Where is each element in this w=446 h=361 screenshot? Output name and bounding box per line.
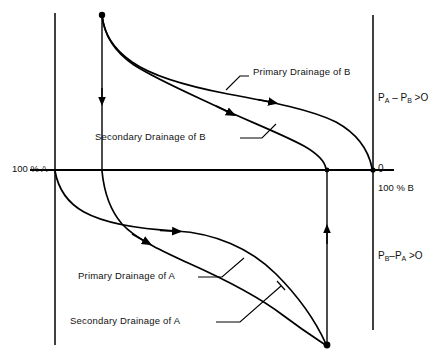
leader-primary-drainage-of-b <box>226 76 249 90</box>
pressure-lower-rel: >O <box>409 250 423 261</box>
arrow-primary-drainage-of-b <box>258 100 276 104</box>
pressure-upper-rel: >O <box>415 92 429 103</box>
arrow-secondary-drainage-of-b <box>216 106 234 115</box>
axis-label-origin: 0 <box>378 163 384 174</box>
top-terminal-dot <box>99 12 105 18</box>
pressure-lower-p1: P <box>378 250 385 261</box>
origin-dot <box>370 167 375 172</box>
pressure-upper-op: – <box>392 92 398 103</box>
drainage-hysteresis-svg <box>0 0 446 361</box>
diagram-canvas: 100 % A 0 100 % B PA – PB >O PB–PA >O Pr… <box>0 0 446 361</box>
label-secondary-drainage-of-a: Secondary Drainage of A <box>70 315 180 326</box>
axis-label-right-lower: 100 % B <box>378 182 414 193</box>
leader-secondary-drainage-of-a <box>216 286 281 322</box>
arrow-secondary-drainage-of-a <box>132 234 150 244</box>
bottom-terminal-dot <box>324 342 331 349</box>
pressure-lower-sub2: A <box>402 255 407 262</box>
curve-primary-drainage-of-b <box>102 15 372 168</box>
pressure-upper-sub1: A <box>385 97 390 104</box>
arrow-primary-drainage-of-a <box>160 231 180 232</box>
label-primary-drainage-of-a: Primary Drainage of A <box>78 270 175 281</box>
axis-label-left: 100 % A <box>12 163 47 174</box>
label-secondary-drainage-of-b: Secondary Drainage of B <box>95 131 206 142</box>
pressure-note-upper: PA – PB >O <box>378 92 428 104</box>
pressure-upper-p1: P <box>378 92 385 103</box>
pressure-upper-sub2: B <box>407 97 412 104</box>
leader-primary-drainage-of-a <box>198 258 244 277</box>
label-primary-drainage-of-b: Primary Drainage of B <box>253 66 351 77</box>
secondary-b-endpoint-dot <box>325 168 330 173</box>
pressure-note-lower: PB–PA >O <box>378 250 423 262</box>
pressure-lower-p2: P <box>395 250 402 261</box>
